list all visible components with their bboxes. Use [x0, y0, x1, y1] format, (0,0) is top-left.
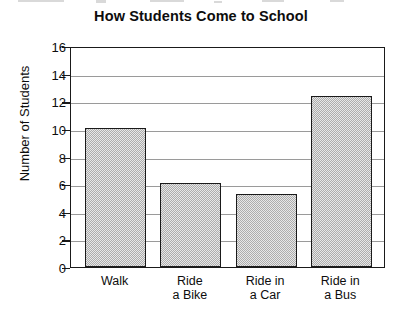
bar-chart: How Students Come to School Number of St…: [0, 0, 402, 319]
x-tick-label-line: Ride in: [227, 274, 304, 288]
y-tick-label: 16: [26, 41, 66, 54]
y-tick-label: 10: [26, 124, 66, 137]
bar: [85, 128, 146, 268]
bar: [311, 96, 372, 267]
y-tick-label: 4: [26, 207, 66, 220]
bar: [236, 194, 297, 267]
x-tick-label: Ride ina Bus: [302, 274, 379, 302]
y-tick-label: 6: [26, 179, 66, 192]
x-tick-label-line: Ride: [151, 274, 228, 288]
x-tick-label: Ridea Bike: [151, 274, 228, 302]
y-tick-label: 2: [26, 234, 66, 247]
x-tick-label-line: Walk: [76, 274, 153, 288]
y-tick-label: 0: [26, 262, 66, 275]
x-tick-label-line: Ride in: [302, 274, 379, 288]
y-tick-label: 8: [26, 152, 66, 165]
x-tick-label: Walk: [76, 274, 153, 288]
x-tick-label-line: a Car: [227, 288, 304, 302]
plot-area: [70, 47, 385, 268]
gridline: [71, 76, 384, 77]
bar: [160, 183, 221, 267]
chart-title: How Students Come to School: [0, 8, 402, 24]
y-tick-label: 14: [26, 69, 66, 82]
x-tick-label: Ride ina Car: [227, 274, 304, 302]
y-tick-label: 12: [26, 96, 66, 109]
x-tick-label-line: a Bus: [302, 288, 379, 302]
x-tick-label-line: a Bike: [151, 288, 228, 302]
